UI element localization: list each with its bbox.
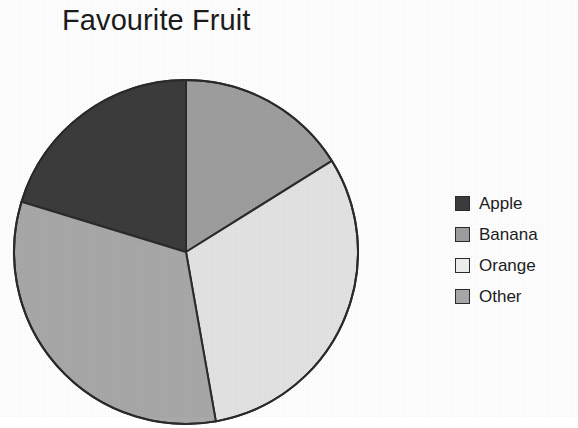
legend-item-other[interactable]: Other bbox=[455, 281, 575, 312]
legend-swatch-banana bbox=[455, 227, 470, 242]
pie-svg bbox=[10, 76, 362, 428]
legend-label-banana: Banana bbox=[479, 226, 538, 243]
legend-label-orange: Orange bbox=[479, 257, 536, 274]
legend-item-apple[interactable]: Apple bbox=[455, 188, 575, 219]
chart-title: Favourite Fruit bbox=[62, 4, 362, 37]
legend-label-other: Other bbox=[479, 288, 522, 305]
legend-label-apple: Apple bbox=[479, 195, 522, 212]
legend-swatch-orange bbox=[455, 258, 470, 273]
legend-item-orange[interactable]: Orange bbox=[455, 250, 575, 281]
legend-swatch-apple bbox=[455, 196, 470, 211]
pie-slice-group bbox=[14, 80, 358, 424]
chart-legend: Apple Banana Orange Other bbox=[455, 188, 575, 312]
legend-item-banana[interactable]: Banana bbox=[455, 219, 575, 250]
pie-plot-area bbox=[10, 76, 362, 428]
legend-swatch-other bbox=[455, 289, 470, 304]
